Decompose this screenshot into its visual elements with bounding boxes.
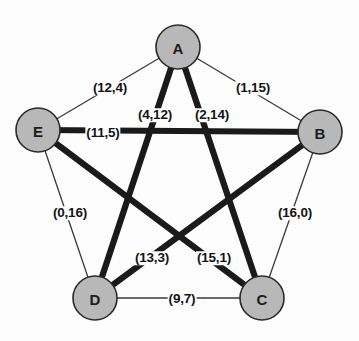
- edge-label-b-c: (16,0): [277, 206, 313, 220]
- node-a-label: A: [173, 40, 184, 57]
- edge-label-e-c: (15,1): [196, 251, 232, 265]
- node-d[interactable]: D: [73, 276, 117, 320]
- graph-svg: A B C D E: [0, 0, 359, 341]
- edge-label-a-d: (4,12): [137, 108, 173, 122]
- graph-canvas: A B C D E (12,4) (1,15) (0,16) (16,0) (9…: [0, 0, 359, 341]
- node-b[interactable]: B: [298, 110, 342, 154]
- node-a[interactable]: A: [156, 25, 200, 69]
- edge-label-a-b: (1,15): [235, 81, 271, 95]
- node-e-label: E: [33, 123, 43, 140]
- edge-label-d-c: (9,7): [168, 292, 197, 306]
- edge-label-a-c: (2,14): [194, 108, 230, 122]
- node-c[interactable]: C: [240, 276, 284, 320]
- node-d-label: D: [90, 291, 101, 308]
- thin-edge-group: [38, 47, 320, 298]
- edge-label-e-b: (11,5): [85, 126, 120, 140]
- edge-label-e-d: (0,16): [52, 206, 88, 220]
- edge-label-d-b: (13,3): [134, 251, 170, 265]
- edge-label-a-e: (12,4): [92, 81, 128, 95]
- node-b-label: B: [315, 125, 326, 142]
- node-c-label: C: [257, 291, 268, 308]
- edge-e-b[interactable]: [38, 130, 320, 132]
- thick-edge-group: [38, 47, 320, 298]
- node-e[interactable]: E: [16, 108, 60, 152]
- node-group: A B C D E: [16, 25, 342, 320]
